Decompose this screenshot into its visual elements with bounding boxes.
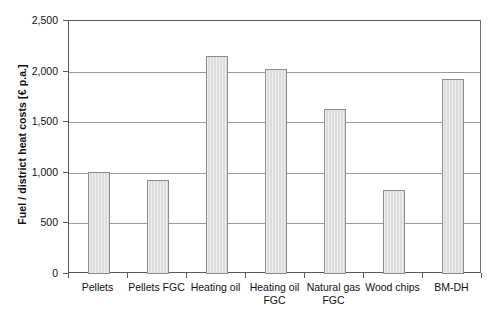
x-axis-tick-mark xyxy=(245,273,246,278)
y-axis-tick-label: 0 xyxy=(4,268,58,278)
bar-chart: Fuel / district heat costs [€ p.a.] 0500… xyxy=(0,0,498,325)
y-axis-title: Fuel / district heat costs [€ p.a.] xyxy=(14,8,30,281)
bar xyxy=(147,180,169,274)
x-axis-tick-mark xyxy=(304,273,305,278)
bar xyxy=(265,69,287,274)
x-axis-tick-mark xyxy=(68,273,69,278)
bar xyxy=(324,109,346,274)
y-axis-tick-label: 500 xyxy=(4,217,58,227)
y-axis-tick-label: 1,000 xyxy=(4,167,58,177)
x-axis-category-label: Natural gas FGC xyxy=(304,281,363,306)
x-axis-category-label: Heating oil xyxy=(186,281,245,294)
bar xyxy=(206,56,228,274)
bar xyxy=(442,79,464,274)
x-axis-category-label: Pellets FGC xyxy=(127,281,186,294)
y-axis-tick-label: 2,500 xyxy=(4,15,58,25)
bar xyxy=(88,172,110,274)
bar xyxy=(383,190,405,274)
plot-area xyxy=(68,20,481,273)
y-axis-tick-label: 2,000 xyxy=(4,66,58,76)
x-axis-tick-mark xyxy=(481,273,482,278)
x-axis-category-label: BM-DH xyxy=(422,281,481,294)
x-axis-tick-mark xyxy=(186,273,187,278)
y-axis-tick-label: 1,500 xyxy=(4,116,58,126)
x-axis-tick-mark xyxy=(127,273,128,278)
x-axis-category-label: Wood chips xyxy=(363,281,422,294)
x-axis-tick-mark xyxy=(363,273,364,278)
x-axis-category-label: Pellets xyxy=(68,281,127,294)
x-axis-category-label: Heating oil FGC xyxy=(245,281,304,306)
x-axis-tick-mark xyxy=(422,273,423,278)
